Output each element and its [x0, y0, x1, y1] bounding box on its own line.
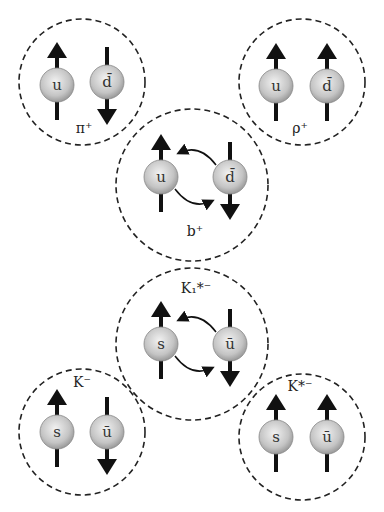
quark-label: d̄	[322, 77, 332, 95]
quark-ū: ū	[90, 397, 124, 475]
meson-label: K*⁻	[288, 378, 313, 394]
meson-k: sūK⁻	[19, 369, 145, 495]
quark-label: d̄	[225, 168, 235, 186]
quark-label: u	[271, 77, 281, 95]
meson-pi: ud̄π⁺	[19, 19, 145, 145]
meson-diagram: ud̄π⁺ud̄ρ⁺ud̄b⁺sūK₁*⁻sūK⁻sūK*⁻	[0, 0, 384, 512]
quark-ū: ū	[310, 394, 344, 472]
spin-up-arrow-icon	[47, 42, 67, 58]
quark-label: s	[272, 428, 280, 446]
meson-b: ud̄b⁺	[116, 109, 268, 261]
exchange-arrow-icon	[175, 356, 212, 371]
quark-ū: ū	[213, 309, 247, 387]
quark-label: ū	[225, 335, 235, 353]
meson-label: π⁺	[76, 120, 93, 136]
meson-k1: sūK₁*⁻	[116, 268, 268, 420]
spin-up-arrow-icon	[151, 301, 171, 317]
quark-label: s	[157, 335, 165, 353]
meson-rho: ud̄ρ⁺	[239, 19, 365, 145]
quark-s: s	[40, 389, 74, 467]
quark-u: u	[40, 42, 74, 120]
exchange-arrow-icon	[179, 150, 216, 165]
quark-u: u	[144, 134, 178, 212]
quark-label: u	[52, 76, 62, 94]
meson-label: K₁*⁻	[181, 280, 211, 296]
meson-label: b⁺	[187, 223, 203, 239]
spin-up-arrow-icon	[317, 394, 337, 410]
spin-up-arrow-icon	[266, 43, 286, 59]
quark-label: d̄	[102, 73, 112, 91]
quark-d̄: d̄	[90, 47, 124, 125]
quark-d̄: d̄	[310, 43, 344, 121]
spin-down-arrow-icon	[220, 371, 240, 387]
exchange-arrow-icon	[179, 317, 216, 332]
quark-d̄: d̄	[213, 142, 247, 220]
spin-down-arrow-icon	[97, 459, 117, 475]
spin-up-arrow-icon	[47, 389, 67, 405]
quark-s: s	[144, 301, 178, 379]
quark-label: ū	[102, 423, 112, 441]
quark-u: u	[259, 43, 293, 121]
spin-up-arrow-icon	[317, 43, 337, 59]
quark-label: ū	[322, 428, 332, 446]
quark-label: u	[156, 168, 166, 186]
meson-kstar: sūK*⁻	[239, 374, 365, 500]
exchange-arrow-icon	[175, 189, 212, 204]
meson-label: ρ⁺	[292, 120, 308, 136]
spin-up-arrow-icon	[266, 394, 286, 410]
spin-up-arrow-icon	[151, 134, 171, 150]
quark-label: s	[53, 423, 61, 441]
spin-down-arrow-icon	[220, 204, 240, 220]
quark-s: s	[259, 394, 293, 472]
spin-down-arrow-icon	[97, 109, 117, 125]
meson-label: K⁻	[73, 374, 91, 390]
